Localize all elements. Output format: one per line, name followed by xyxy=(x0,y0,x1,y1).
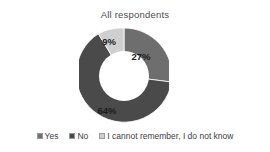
slice-label-unknown: 9% xyxy=(102,36,116,47)
doughnut-slices xyxy=(79,28,169,122)
chart-legend: Yes No I cannot remember, I do not know xyxy=(0,131,270,141)
legend-swatch-icon-no xyxy=(69,133,75,139)
doughnut-chart: 27% 64% 9% xyxy=(79,26,169,126)
legend-label-yes: Yes xyxy=(45,131,59,141)
chart-title: All respondents xyxy=(0,9,270,20)
chart-container: All respondents 27% 64% 9% Yes No xyxy=(0,0,270,152)
slice-label-yes: 27% xyxy=(131,51,151,62)
legend-item-unknown[interactable]: I cannot remember, I do not know xyxy=(99,131,233,141)
legend-swatch-icon-yes xyxy=(37,133,43,139)
legend-item-yes[interactable]: Yes xyxy=(37,131,59,141)
legend-label-no: No xyxy=(77,131,88,141)
slice-label-no: 64% xyxy=(97,105,117,116)
legend-item-no[interactable]: No xyxy=(69,131,88,141)
doughnut-svg: 27% 64% 9% xyxy=(79,26,169,126)
legend-swatch-icon-unknown xyxy=(99,133,105,139)
legend-label-unknown: I cannot remember, I do not know xyxy=(107,131,233,141)
